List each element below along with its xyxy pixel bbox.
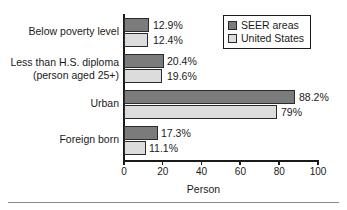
bar-row-us: 19.6% bbox=[124, 69, 318, 83]
bar-value-us-urban: 79% bbox=[281, 105, 302, 119]
bar-group-less-than-hs-diploma: 20.4% 19.6% bbox=[124, 54, 318, 84]
bar-value-seer-less-than-hs-diploma: 20.4% bbox=[167, 54, 197, 68]
bar-value-seer-below-poverty-level: 12.9% bbox=[153, 18, 183, 32]
category-label-line: Less than H.S. diploma bbox=[10, 56, 119, 69]
bar-us-less-than-hs-diploma[interactable] bbox=[124, 69, 162, 83]
bottom-divider bbox=[8, 202, 339, 203]
x-tick-label-0: 0 bbox=[109, 166, 139, 178]
bar-value-us-below-poverty-level: 12.4% bbox=[153, 33, 183, 47]
category-label-foreign-born: Foreign born bbox=[59, 133, 119, 146]
x-axis-line bbox=[123, 160, 319, 162]
category-label-urban: Urban bbox=[90, 97, 119, 110]
x-tick-label-40: 40 bbox=[187, 166, 217, 178]
legend-swatch-seer-areas bbox=[228, 21, 237, 30]
bar-row-us: 11.1% bbox=[124, 141, 318, 155]
bar-group-foreign-born: 17.3% 11.1% bbox=[124, 126, 318, 156]
x-tick-label-80: 80 bbox=[264, 166, 294, 178]
chart-figure: 0 20 40 60 80 100 Person Below poverty l… bbox=[0, 0, 347, 210]
bar-us-urban[interactable] bbox=[124, 105, 277, 119]
x-tick-0 bbox=[123, 161, 125, 165]
legend-item-united-states[interactable]: United States bbox=[228, 32, 304, 45]
legend-item-seer-areas[interactable]: SEER areas bbox=[228, 19, 304, 32]
category-label-line-2: (person aged 25+) bbox=[10, 69, 119, 82]
x-tick-label-100: 100 bbox=[303, 166, 333, 178]
legend-label-united-states: United States bbox=[241, 32, 304, 45]
bar-value-us-less-than-hs-diploma: 19.6% bbox=[167, 69, 197, 83]
x-tick-40 bbox=[201, 161, 203, 165]
category-label-line: Below poverty level bbox=[29, 25, 119, 38]
x-tick-label-20: 20 bbox=[148, 166, 178, 178]
x-tick-60 bbox=[239, 161, 241, 165]
bar-us-below-poverty-level[interactable] bbox=[124, 33, 148, 47]
chart-legend: SEER areas United States bbox=[223, 15, 311, 49]
bar-row-us: 79% bbox=[124, 105, 318, 119]
x-tick-label-60: 60 bbox=[225, 166, 255, 178]
bar-seer-less-than-hs-diploma[interactable] bbox=[124, 54, 164, 68]
x-tick-100 bbox=[317, 161, 319, 165]
bar-row-seer: 20.4% bbox=[124, 54, 318, 68]
category-label-line: Foreign born bbox=[59, 133, 119, 146]
category-label-below-poverty-level: Below poverty level bbox=[29, 25, 119, 38]
bar-seer-below-poverty-level[interactable] bbox=[124, 18, 149, 32]
category-label-less-than-hs-diploma: Less than H.S. diploma (person aged 25+) bbox=[10, 56, 119, 82]
x-tick-20 bbox=[162, 161, 164, 165]
x-axis-title: Person bbox=[0, 183, 347, 195]
x-tick-80 bbox=[278, 161, 280, 165]
bar-group-urban: 88.2% 79% bbox=[124, 90, 318, 120]
bar-value-seer-foreign-born: 17.3% bbox=[161, 126, 191, 140]
bar-row-seer: 17.3% bbox=[124, 126, 318, 140]
bar-us-foreign-born[interactable] bbox=[124, 141, 146, 155]
legend-label-seer-areas: SEER areas bbox=[241, 19, 299, 32]
bar-seer-urban[interactable] bbox=[124, 90, 295, 104]
bar-seer-foreign-born[interactable] bbox=[124, 126, 158, 140]
category-label-line: Urban bbox=[90, 97, 119, 110]
bar-value-us-foreign-born: 11.1% bbox=[149, 141, 178, 155]
bar-value-seer-urban: 88.2% bbox=[299, 90, 329, 104]
bar-row-seer: 88.2% bbox=[124, 90, 318, 104]
legend-swatch-united-states bbox=[228, 34, 237, 43]
